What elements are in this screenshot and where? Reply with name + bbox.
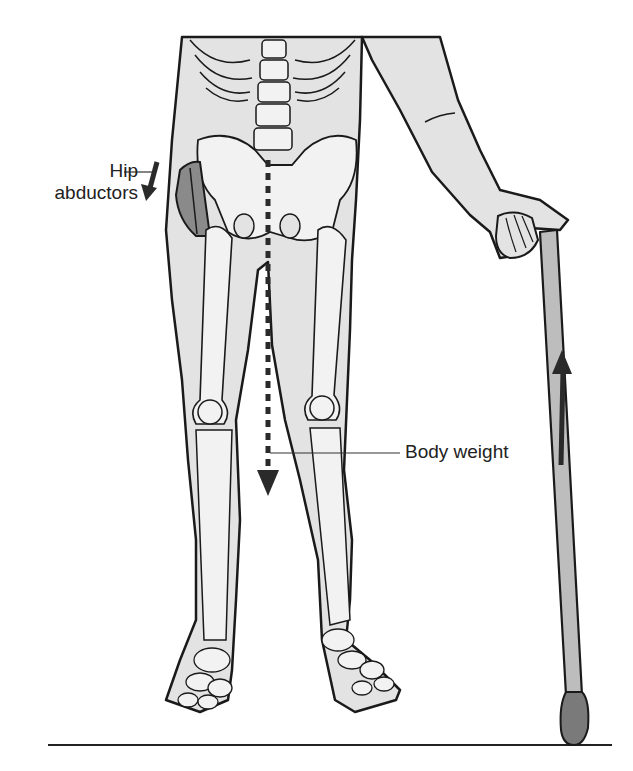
patella-right (310, 396, 334, 420)
obturator-left (234, 214, 254, 238)
hip-abductors-label: Hip abductors (40, 160, 138, 204)
hip-abductor-arrow-head (141, 184, 157, 201)
cane-tip (561, 692, 589, 745)
anatomy-illustration (0, 0, 633, 771)
body-weight-arrow-head (257, 470, 279, 496)
hip-abductors-label-line1: Hip (40, 160, 138, 182)
patella-left (198, 400, 222, 424)
hip-abductors-label-line2: abductors (40, 182, 138, 204)
hip-abductor-arrow-shaft (150, 162, 157, 188)
fist (496, 212, 538, 258)
hip-abductors-cane-diagram: Hip abductors Body weight (0, 0, 633, 771)
cane-force-arrow-shaft (561, 370, 563, 465)
obturator-right (280, 214, 300, 238)
arm (362, 37, 568, 258)
body-weight-label: Body weight (405, 441, 509, 463)
